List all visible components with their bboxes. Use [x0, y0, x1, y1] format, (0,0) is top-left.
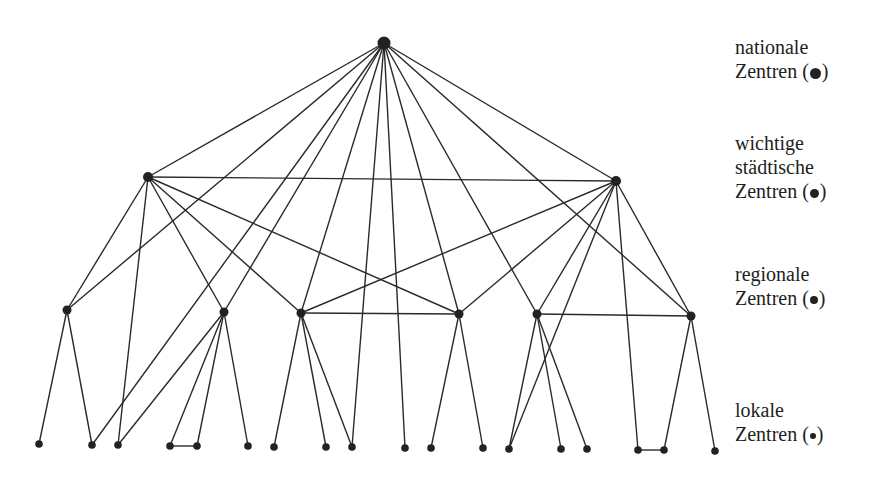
lokal-center-node-L8 — [322, 443, 330, 451]
lokal-center-node-L7 — [270, 443, 278, 451]
edge-N-R1 — [67, 43, 384, 310]
legend-important-line1: wichtige — [735, 131, 827, 155]
edge-N-L9 — [352, 43, 384, 447]
legend-national-centers: nationale Zentren () — [735, 35, 829, 83]
edge-R6-L18 — [691, 316, 715, 451]
lokal-center-node-L18 — [711, 447, 719, 455]
edge-R5-L14 — [537, 314, 561, 449]
edge-R5-R6 — [537, 314, 691, 316]
edge-R1-L2 — [67, 310, 92, 445]
legend-local-line2: Zentren () — [735, 422, 824, 446]
edge-W1-R2 — [148, 177, 224, 312]
regional-dot-icon — [810, 296, 818, 304]
lokal-center-node-L17 — [660, 446, 668, 454]
edge-R4-L12 — [459, 314, 483, 448]
wichtig-center-node-W1 — [143, 172, 153, 182]
lokal-center-node-L16 — [634, 446, 642, 454]
lokal-center-node-L2 — [88, 441, 96, 449]
edge-R1-L1 — [39, 310, 67, 444]
center-nodes — [35, 37, 719, 455]
legend-important-line3: Zentren () — [735, 179, 827, 203]
edge-W2-R5 — [537, 181, 616, 314]
edge-R2-L5 — [197, 312, 224, 446]
wichtig-center-node-W2 — [611, 176, 621, 186]
regional-center-node-R2 — [220, 308, 229, 317]
legend-important-urban-centers: wichtige städtische Zentren () — [735, 131, 827, 203]
legend-local-line1: lokale — [735, 398, 824, 422]
lokal-center-node-L9 — [348, 443, 356, 451]
lokal-center-node-L6 — [244, 442, 252, 450]
edge-R4-L11 — [431, 314, 459, 448]
legend-regional-centers: regionale Zentren () — [735, 262, 826, 310]
edge-R6-L17 — [664, 316, 691, 450]
lokal-center-node-L3 — [114, 441, 122, 449]
edge-R3-L9 — [301, 313, 352, 447]
legend-local-centers: lokale Zentren () — [735, 398, 824, 446]
national-dot-icon — [810, 68, 821, 79]
regional-center-node-R5 — [533, 310, 542, 319]
edge-R3-R4 — [301, 313, 459, 314]
lokal-center-node-L1 — [35, 440, 43, 448]
edge-N-W2 — [384, 43, 616, 181]
lokal-center-node-L13 — [505, 445, 513, 453]
lokal-center-node-L10 — [401, 444, 409, 452]
edge-R5-L15 — [537, 314, 587, 449]
connection-lines — [39, 43, 715, 451]
edge-W1-R3 — [148, 177, 301, 313]
lokal-center-node-L15 — [583, 445, 591, 453]
edge-W1-W2 — [148, 177, 616, 181]
edge-R2-L4 — [170, 312, 224, 446]
edge-W2-R3 — [301, 181, 616, 313]
lokal-center-node-L11 — [427, 444, 435, 452]
legend-important-line2: städtische — [735, 155, 827, 179]
edge-W1-R4 — [148, 177, 459, 314]
legend-regional-line1: regionale — [735, 262, 826, 286]
legend-regional-line2: Zentren () — [735, 286, 826, 310]
local-dot-icon — [810, 433, 816, 439]
edge-R2-L6 — [224, 312, 248, 446]
important-dot-icon — [810, 189, 819, 198]
regional-center-node-R1 — [63, 306, 72, 315]
edge-W1-L3 — [118, 177, 148, 445]
legend-national-line2: Zentren () — [735, 59, 829, 83]
edge-R3-L7 — [274, 313, 301, 447]
regional-center-node-R6 — [687, 312, 696, 321]
edge-W2-R6 — [616, 181, 691, 316]
edge-N-R5 — [384, 43, 537, 314]
lokal-center-node-L4 — [166, 442, 174, 450]
edge-R5-L13 — [509, 314, 537, 449]
edge-N-L10 — [384, 43, 405, 448]
lokal-center-node-L14 — [557, 445, 565, 453]
lokal-center-node-L5 — [193, 442, 201, 450]
edge-R2-L3 — [118, 312, 224, 445]
edge-N-L2 — [92, 43, 384, 445]
regional-center-node-R4 — [455, 310, 464, 319]
legend-national-line1: nationale — [735, 35, 829, 59]
national-center-node-N — [378, 37, 391, 50]
lokal-center-node-L12 — [479, 444, 487, 452]
edge-W2-R4 — [459, 181, 616, 314]
edge-R3-L8 — [301, 313, 326, 447]
regional-center-node-R3 — [297, 309, 306, 318]
